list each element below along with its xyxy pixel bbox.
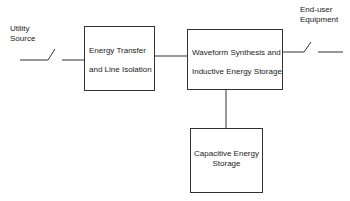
waveform-line2: Inductive Energy Storage: [192, 67, 282, 77]
utility-label-line2: Source: [10, 34, 35, 44]
waveform-line1: Waveform Synthesis and: [192, 48, 281, 58]
output-switch-icon: [304, 42, 311, 52]
energy-transfer-box: Energy Transfer and Line Isolation: [84, 26, 155, 91]
utility-switch-icon: [48, 49, 55, 60]
utility-source-label: Utility Source: [10, 24, 35, 44]
utility-label-line1: Utility: [10, 24, 35, 34]
waveform-synthesis-box: Waveform Synthesis and Inductive Energy …: [187, 29, 283, 90]
connection-lines: [0, 0, 350, 201]
end-user-label-line2: Equipment: [300, 15, 338, 25]
energy-transfer-line2: and Line Isolation: [89, 65, 152, 75]
end-user-label: End-user Equipment: [300, 5, 338, 25]
end-user-label-line1: End-user: [300, 5, 338, 15]
capacitive-line1: Capacitive Energy: [191, 149, 262, 159]
energy-transfer-line1: Energy Transfer: [89, 46, 146, 56]
capacitive-line2: Storage: [191, 159, 262, 169]
capacitive-storage-box: Capacitive Energy Storage: [190, 128, 263, 193]
